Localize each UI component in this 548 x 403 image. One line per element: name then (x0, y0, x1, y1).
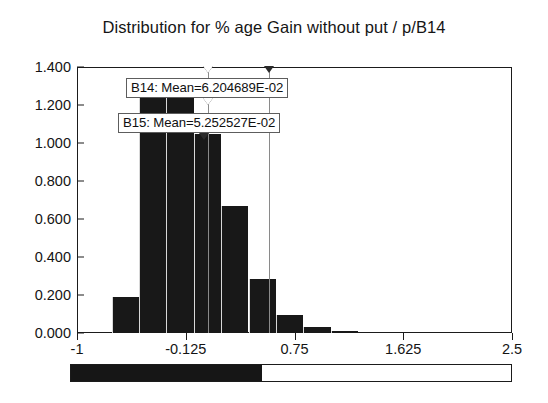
x-axis-tick-mark (186, 333, 187, 340)
y-axis-tick-label: 0.600 (11, 211, 71, 227)
delimiter-right[interactable] (269, 67, 270, 333)
histogram-bar (303, 327, 330, 333)
stat-pointer-b15-icon (199, 133, 209, 140)
range-slider-fill[interactable] (71, 365, 262, 381)
y-axis-tick-mark (77, 257, 84, 258)
histogram-chart: Distribution for % age Gain without put … (0, 0, 548, 403)
chart-title: Distribution for % age Gain without put … (0, 18, 548, 37)
y-axis-tick-mark (77, 181, 84, 182)
y-axis-tick-mark (77, 333, 84, 334)
histogram-bar (249, 279, 276, 333)
x-axis-tick-mark (77, 333, 78, 340)
y-axis-tick-mark (77, 105, 84, 106)
x-axis-tick-mark (295, 333, 296, 340)
delimiter-left[interactable] (208, 67, 209, 333)
y-axis-tick-mark (77, 143, 84, 144)
x-axis-tick-label: -1 (71, 341, 84, 357)
y-axis-tick-label: 1.400 (11, 59, 71, 75)
y-axis-tick-label: 1.000 (11, 135, 71, 151)
y-axis-tick-mark (77, 295, 84, 296)
x-axis-tick-mark (512, 333, 513, 340)
y-axis-tick-label: 0.000 (11, 325, 71, 341)
stat-label-b15: B15: Mean=5.252527E-02 (118, 113, 280, 133)
y-axis-tick-mark (77, 67, 84, 68)
delimiter-left-marker-icon[interactable] (203, 66, 213, 73)
y-axis-tick-label: 1.200 (11, 97, 71, 113)
histogram-bar (331, 331, 358, 333)
delimiter-right-marker-icon[interactable] (264, 66, 274, 73)
x-axis-tick-mark (403, 333, 404, 340)
stat-pointer-b14-icon (203, 98, 213, 105)
y-axis-tick-label: 0.800 (11, 173, 71, 189)
histogram-bar (221, 206, 248, 333)
histogram-bar (276, 315, 303, 333)
range-slider[interactable] (70, 364, 512, 382)
y-axis-tick-label: 0.200 (11, 287, 71, 303)
y-axis-tick-label: 0.400 (11, 249, 71, 265)
plot-area (77, 67, 512, 333)
x-axis-tick-label: 2.5 (502, 341, 522, 357)
y-axis-tick-mark (77, 219, 84, 220)
x-axis-tick-label: -0.125 (165, 341, 206, 357)
histogram-bar (112, 297, 139, 333)
x-axis-tick-label: 0.75 (280, 341, 308, 357)
x-axis-tick-label: 1.625 (385, 341, 421, 357)
stat-label-b14: B14: Mean=6.204689E-02 (126, 78, 288, 98)
